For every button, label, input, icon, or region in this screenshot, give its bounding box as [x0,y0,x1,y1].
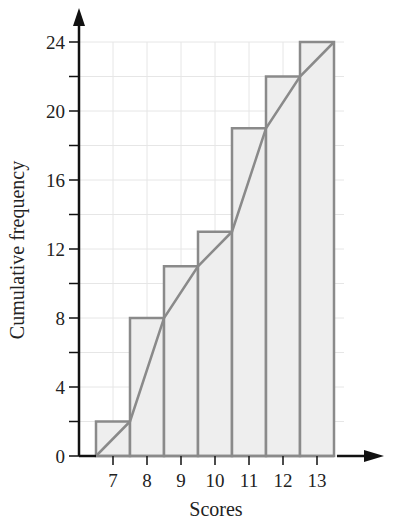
x-tick-label: 10 [206,470,225,491]
y-tick-label: 8 [56,308,66,329]
x-tick-label: 11 [240,470,258,491]
cumulative-frequency-chart: 04812162024 78910111213 Scores Cumulativ… [0,0,399,524]
x-axis-arrow-icon [364,450,384,462]
x-tick-label: 7 [108,470,118,491]
bar-12 [266,77,300,457]
y-tick-label: 20 [46,101,65,122]
x-tick-label: 8 [142,470,152,491]
x-tick-label: 13 [308,470,327,491]
y-axis-ticks: 04812162024 [46,32,79,467]
x-axis-ticks: 78910111213 [108,456,326,491]
x-tick-label: 12 [274,470,293,491]
bar-10 [198,232,232,456]
y-tick-label: 4 [56,377,66,398]
y-tick-label: 16 [46,170,65,191]
y-axis-title: Cumulative frequency [6,161,29,339]
y-tick-label: 24 [46,32,66,53]
y-tick-label: 12 [46,239,65,260]
y-tick-label: 0 [56,446,66,467]
x-axis-title: Scores [189,498,243,520]
bar-9 [164,266,198,456]
x-tick-label: 9 [176,470,186,491]
y-axis-arrow-icon [73,8,85,26]
bar-8 [130,318,164,456]
bar-13 [300,42,334,456]
